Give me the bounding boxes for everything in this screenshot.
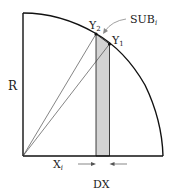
dx-left-arrowhead bbox=[91, 162, 96, 166]
sub-pointer-arrowhead bbox=[103, 28, 108, 34]
label-subi: SUBi bbox=[130, 13, 157, 27]
dx-right-arrowhead bbox=[110, 162, 115, 166]
quarter-circle-arc bbox=[23, 13, 163, 156]
label-r: R bbox=[8, 79, 18, 93]
radial-line-y2 bbox=[23, 34, 96, 156]
point-y1 bbox=[108, 42, 111, 45]
label-dx: DX bbox=[93, 178, 110, 191]
label-y2: Y2 bbox=[88, 19, 101, 33]
label-y1: Y1 bbox=[111, 34, 124, 48]
quarter-circle-diagram: R Y2 Y1 SUBi Xi DX bbox=[0, 0, 172, 193]
label-xi: Xi bbox=[53, 158, 63, 172]
sub-pointer-arrow bbox=[105, 19, 126, 31]
